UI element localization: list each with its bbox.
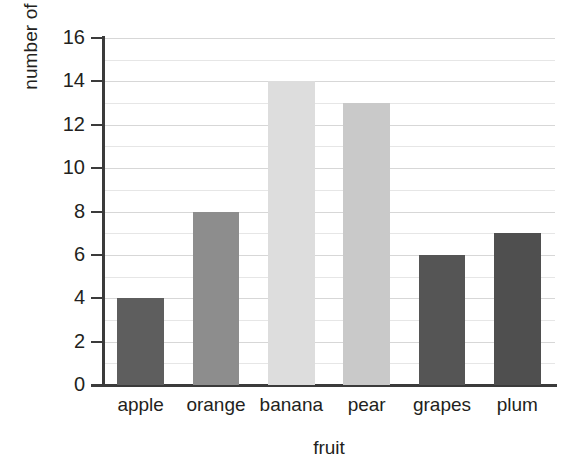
- y-axis-tick: [91, 124, 103, 126]
- x-axis-tick-label: orange: [178, 392, 253, 418]
- y-axis-tick-label: 0: [45, 374, 85, 394]
- bar-pear: [343, 103, 390, 385]
- bar-banana: [268, 81, 315, 385]
- bar-chart: number of people 0246810121416 appleoran…: [0, 0, 584, 473]
- bars-layer: [103, 38, 555, 385]
- y-axis-tick: [91, 80, 103, 82]
- x-axis-tick-label: plum: [480, 392, 555, 418]
- x-axis-tick-label: apple: [103, 392, 178, 418]
- y-axis-tick-label: 8: [45, 201, 85, 221]
- y-axis-tick: [91, 211, 103, 213]
- bar-apple: [117, 298, 164, 385]
- y-axis-tick: [91, 297, 103, 299]
- bar-grapes: [419, 255, 466, 385]
- y-axis-tick-label: 2: [45, 331, 85, 351]
- y-axis-tick: [91, 37, 103, 39]
- x-axis-tick-label: banana: [254, 392, 329, 418]
- y-axis-tick-label: 4: [45, 287, 85, 307]
- y-axis-tick-label: 14: [45, 70, 85, 90]
- bar-orange: [193, 212, 240, 386]
- y-axis-tick-labels: 0246810121416: [30, 0, 85, 473]
- y-axis-tick: [91, 167, 103, 169]
- x-axis-tick-labels: appleorangebananapeargrapesplum: [103, 392, 555, 422]
- bar-plum: [494, 233, 541, 385]
- y-axis-tick: [91, 384, 103, 386]
- y-axis-tick: [91, 341, 103, 343]
- x-axis-tick-label: pear: [329, 392, 404, 418]
- x-axis-title: fruit: [103, 437, 555, 459]
- x-axis-tick-label: grapes: [404, 392, 479, 418]
- y-axis-tick-label: 6: [45, 244, 85, 264]
- y-axis-tick-label: 12: [45, 114, 85, 134]
- y-axis-tick-label: 16: [45, 27, 85, 47]
- y-axis-tick: [91, 254, 103, 256]
- y-axis-tick-label: 10: [45, 157, 85, 177]
